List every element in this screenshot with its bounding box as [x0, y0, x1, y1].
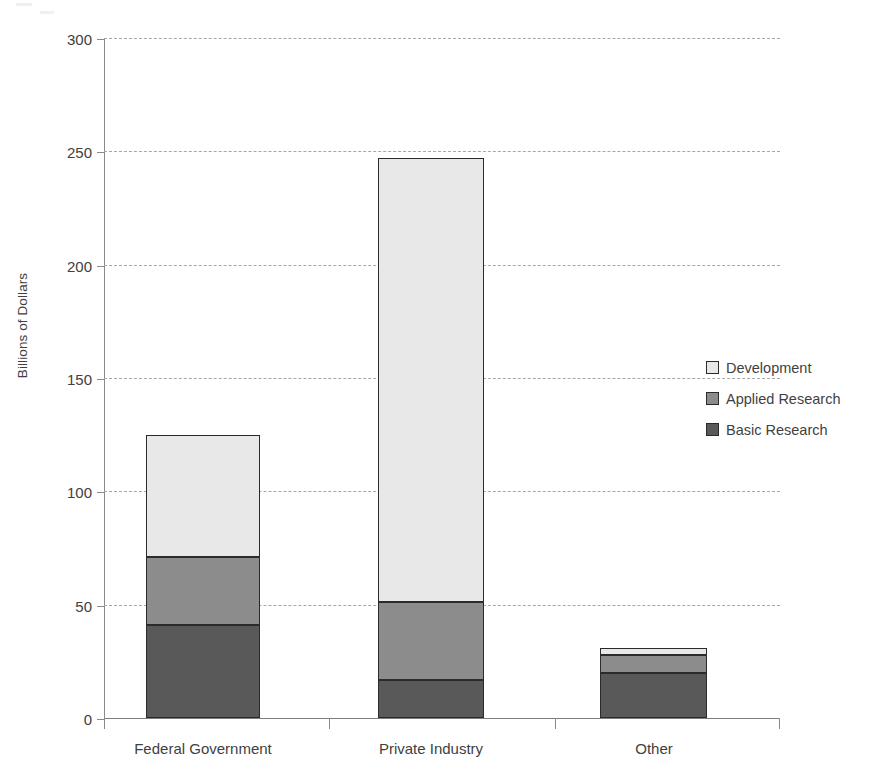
y-tick-150 [97, 379, 104, 380]
bar-segment-basic-research [146, 625, 260, 718]
bar-federal-government [146, 435, 260, 718]
bar-segment-applied-research [146, 557, 260, 625]
gridline-300: 300 [104, 38, 780, 39]
y-tick-50 [97, 606, 104, 607]
bar-segment-basic-research [378, 680, 484, 719]
scan-artifact [16, 3, 32, 6]
bar-segment-basic-research [600, 673, 707, 718]
x-tick-1 [329, 718, 330, 729]
x-axis-label-other: Other [544, 740, 764, 757]
bar-segment-applied-research [600, 655, 707, 673]
gridline-0: 0 [104, 718, 780, 719]
bar-segment-development [146, 435, 260, 557]
x-tick-2 [555, 718, 556, 729]
gridline-250: 250 [104, 151, 780, 152]
legend-label-development: Development [726, 360, 811, 376]
y-tick-label-0: 0 [22, 711, 92, 728]
y-tick-0 [97, 719, 104, 720]
y-tick-300 [97, 39, 104, 40]
x-axis-label-federal-government: Federal Government [93, 740, 313, 757]
y-tick-label-200: 200 [22, 257, 92, 274]
stacked-bar-chart: Billions of Dollars 300 250 200 150 100 … [0, 0, 881, 776]
legend-swatch-basic-research-icon [706, 423, 719, 436]
bar-segment-development [600, 648, 707, 655]
scan-artifact [40, 11, 54, 14]
x-tick-0 [104, 718, 105, 729]
legend-item-applied-research[interactable]: Applied Research [706, 383, 876, 414]
y-tick-200 [97, 266, 104, 267]
y-tick-label-50: 50 [22, 597, 92, 614]
x-axis-label-private-industry: Private Industry [321, 740, 541, 757]
bar-private-industry [378, 158, 484, 718]
x-tick-3 [779, 718, 780, 729]
legend-swatch-applied-research-icon [706, 392, 719, 405]
legend-label-applied-research: Applied Research [726, 391, 840, 407]
bar-other [600, 648, 707, 718]
legend-item-development[interactable]: Development [706, 352, 876, 383]
chart-legend: Development Applied Research Basic Resea… [706, 352, 876, 445]
y-tick-label-100: 100 [22, 484, 92, 501]
bar-segment-development [378, 158, 484, 602]
y-tick-label-250: 250 [22, 144, 92, 161]
y-tick-label-150: 150 [22, 371, 92, 388]
legend-label-basic-research: Basic Research [726, 422, 828, 438]
y-tick-250 [97, 152, 104, 153]
legend-swatch-development-icon [706, 361, 719, 374]
legend-item-basic-research[interactable]: Basic Research [706, 414, 876, 445]
plot-area: 300 250 200 150 100 50 0 [104, 38, 780, 718]
y-tick-100 [97, 492, 104, 493]
bar-segment-applied-research [378, 602, 484, 679]
y-tick-label-300: 300 [22, 31, 92, 48]
